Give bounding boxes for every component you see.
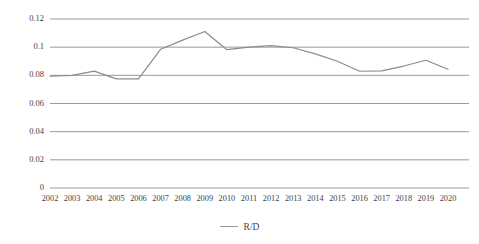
data-series-group	[50, 32, 448, 79]
y-tick-label-0.04: 0.04	[29, 127, 44, 136]
y-tick-label-0.02: 0.02	[29, 155, 44, 164]
y-tick-label-0.06: 0.06	[29, 99, 44, 108]
x-tick-label-2014: 2014	[307, 194, 324, 204]
x-tick-label-2018: 2018	[395, 194, 412, 204]
series-line-r-d	[50, 32, 448, 79]
y-tick-label-0.08: 0.08	[29, 70, 44, 79]
y-tick-label-0.12: 0.12	[29, 14, 44, 23]
x-tick-label-2011: 2011	[241, 194, 257, 204]
line-chart-figure: 00.020.040.060.080.10.12 200220032004200…	[0, 0, 479, 244]
x-tick-label-2007: 2007	[152, 194, 169, 204]
legend-item-rd: R/D	[220, 221, 260, 233]
legend-line-swatch	[220, 226, 238, 227]
x-tick-label-2010: 2010	[219, 194, 236, 204]
x-tick-label-2015: 2015	[329, 194, 346, 204]
chart-legend: R/D	[0, 218, 479, 233]
y-tick-label-0.1: 0.1	[33, 42, 44, 51]
x-tick-label-2002: 2002	[42, 194, 59, 204]
legend-item-label: R/D	[244, 221, 260, 233]
x-tick-label-2020: 2020	[440, 194, 457, 204]
x-tick-label-2005: 2005	[108, 194, 125, 204]
y-tick-label-0: 0	[40, 183, 44, 192]
x-tick-label-2012: 2012	[263, 194, 280, 204]
x-tick-label-2009: 2009	[196, 194, 213, 204]
x-tick-label-2019: 2019	[418, 194, 435, 204]
gridlines-group	[50, 19, 469, 188]
x-tick-label-2016: 2016	[351, 194, 368, 204]
x-tick-label-2006: 2006	[130, 194, 147, 204]
x-tick-label-2003: 2003	[64, 194, 81, 204]
x-tick-label-2008: 2008	[174, 194, 191, 204]
x-tick-label-2013: 2013	[285, 194, 302, 204]
y-axis-tick-labels: 00.020.040.060.080.10.12	[8, 0, 44, 244]
x-tick-label-2004: 2004	[86, 194, 103, 204]
x-axis-tick-labels: 2002200320042005200620072008200920102011…	[50, 194, 448, 208]
x-tick-label-2017: 2017	[373, 194, 390, 204]
